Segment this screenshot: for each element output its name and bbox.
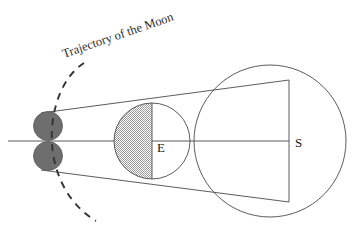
moon-circle-lower [34, 142, 63, 171]
trajectory-label: Trajectory of the Moon [60, 9, 175, 60]
tangent-line-upper [41, 80, 289, 113]
tangent-line-lower [41, 170, 289, 202]
earth-label: E [157, 140, 165, 155]
sun-label: S [295, 135, 302, 150]
moon-trajectory-dashed-arc [52, 63, 96, 221]
moon-circle-upper [34, 112, 63, 141]
eclipse-geometry-diagram: Trajectory of the Moon E S [0, 0, 359, 229]
diagram-canvas: Trajectory of the Moon E S [0, 0, 359, 229]
